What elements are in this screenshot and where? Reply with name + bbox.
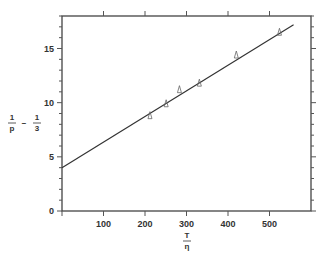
plot-frame (62, 16, 311, 211)
y-tick-label: 5 (49, 152, 54, 162)
axis-ticks (57, 11, 316, 216)
fit-line-group (62, 25, 294, 168)
ylabel-operator: − (22, 119, 27, 128)
data-point (177, 86, 181, 93)
xlabel-num: T (185, 231, 190, 240)
x-tick-label: 300 (179, 219, 194, 229)
ylabel-term1-num: 1 (10, 113, 15, 122)
tick-labels: 100200300400500051015 (44, 44, 277, 230)
data-point (234, 51, 238, 58)
xlabel-den: η (185, 242, 190, 251)
chart: 100200300400500051015 1 p − 1 3 T η (0, 0, 322, 260)
y-axis-label: 1 p − 1 3 (8, 113, 41, 133)
y-tick-label: 10 (44, 98, 54, 108)
x-tick-label: 400 (220, 219, 235, 229)
fit-line (62, 25, 294, 168)
data-point (277, 28, 281, 35)
plot-border (62, 16, 311, 211)
y-tick-label: 15 (44, 44, 54, 54)
x-tick-label: 500 (262, 219, 277, 229)
ylabel-term1-den: p (10, 124, 15, 133)
x-axis-label: T η (183, 231, 191, 251)
x-tick-label: 100 (96, 219, 111, 229)
ylabel-term2-num: 1 (35, 113, 40, 122)
y-tick-label: 0 (49, 206, 54, 216)
x-tick-label: 200 (137, 219, 152, 229)
ylabel-term2-den: 3 (35, 124, 40, 133)
